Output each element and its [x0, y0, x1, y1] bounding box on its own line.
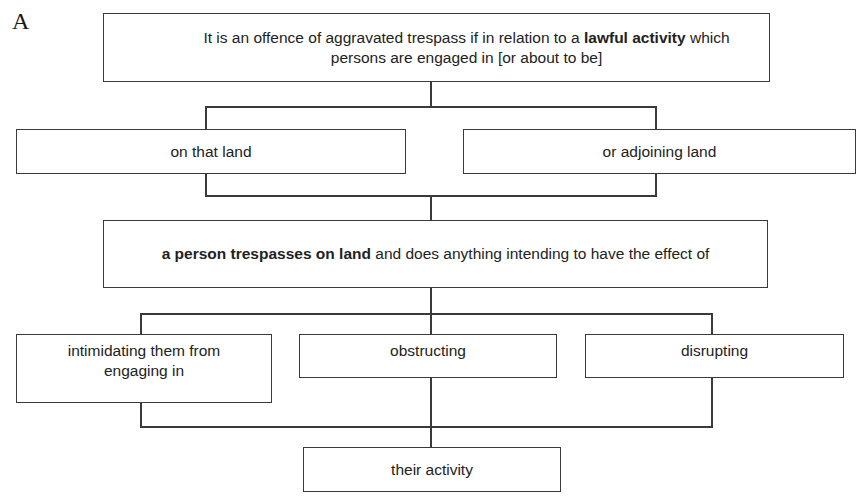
- middle-text-after: and does anything intending to have the …: [371, 245, 709, 262]
- obstructing-box: obstructing: [299, 334, 557, 378]
- person-trespasses-box: a person trespasses on land and does any…: [103, 220, 768, 288]
- disrupting-text: disrupting: [681, 341, 748, 361]
- top-text-bold: lawful activity: [584, 29, 686, 46]
- disrupting-box: disrupting: [585, 334, 844, 378]
- figure-label: A: [12, 8, 29, 35]
- top-text-before: It is an offence of aggravated trespass …: [203, 29, 584, 46]
- connector-line: [430, 196, 432, 221]
- middle-text-bold: a person trespasses on land: [162, 245, 371, 262]
- adjoining-land-text: or adjoining land: [603, 142, 717, 162]
- intimidating-text: intimidating them from engaging in: [68, 342, 220, 379]
- bracket-line: [205, 106, 657, 108]
- bracket-line: [140, 426, 713, 428]
- connector-line: [430, 82, 432, 107]
- on-that-land-text: on that land: [170, 142, 251, 162]
- bracket-line: [140, 313, 713, 315]
- their-activity-box: their activity: [303, 447, 561, 492]
- obstructing-text: obstructing: [390, 341, 466, 361]
- on-that-land-box: on that land: [16, 129, 406, 174]
- their-activity-text: their activity: [391, 460, 473, 480]
- top-statement-box: It is an offence of aggravated trespass …: [103, 13, 770, 82]
- connector-line: [430, 288, 432, 314]
- adjoining-land-box: or adjoining land: [463, 129, 856, 174]
- intimidating-box: intimidating them from engaging in: [16, 334, 272, 403]
